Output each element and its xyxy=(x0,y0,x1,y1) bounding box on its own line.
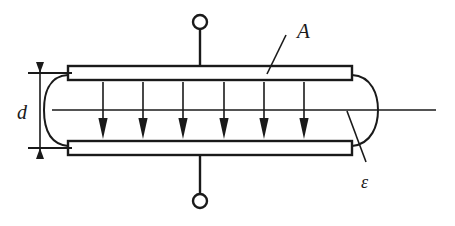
top-plate xyxy=(68,66,352,80)
dimension-arrowhead-bottom xyxy=(36,148,44,159)
bottom-terminal-circle xyxy=(193,194,207,208)
label-permittivity: ε xyxy=(361,172,369,192)
capacitor-diagram: A d ε xyxy=(0,0,455,226)
label-separation: d xyxy=(17,101,28,123)
top-terminal-circle xyxy=(193,15,207,29)
label-area: A xyxy=(295,19,310,43)
capacitor-figure: A d ε xyxy=(0,0,455,226)
bottom-plate xyxy=(68,141,352,155)
dimension-arrowhead-top xyxy=(36,62,44,73)
